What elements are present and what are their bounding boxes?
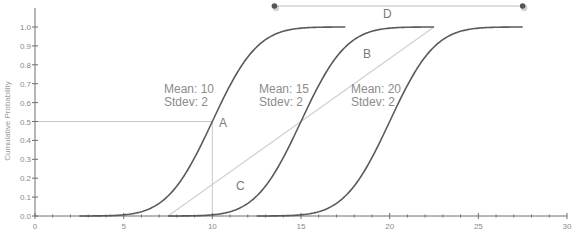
letter-d: D: [383, 7, 392, 21]
y-tick-label: 0.6: [20, 99, 32, 108]
x-tick-label: 5: [121, 222, 126, 231]
letter-c: C: [236, 179, 245, 193]
y-axis-label: Cumulative Probability: [3, 81, 12, 161]
annotation-mean-15: Mean: 15: [259, 82, 309, 96]
annotation-mean-10: Mean: 10: [164, 82, 214, 96]
annotation-stdev-10: Stdev: 2: [164, 95, 208, 109]
y-tick-label: 1.0: [20, 23, 32, 32]
y-tick-label: 0.7: [20, 80, 32, 89]
cdf-curve-mean-20: [257, 27, 523, 216]
letter-a: A: [219, 116, 227, 130]
y-tick-label: 0.0: [20, 212, 32, 221]
annotation-stdev-15: Stdev: 2: [259, 95, 303, 109]
x-tick-label: 25: [474, 222, 483, 231]
x-tick-label: 0: [33, 222, 38, 231]
cdf-chart: 0510152025300.00.10.20.30.40.50.60.70.80…: [0, 0, 584, 244]
x-tick-label: 20: [385, 222, 394, 231]
y-tick-label: 0.3: [20, 155, 32, 164]
x-tick-label: 30: [563, 222, 572, 231]
letter-b: B: [363, 47, 371, 61]
x-tick-label: 15: [297, 222, 306, 231]
y-tick-label: 0.2: [20, 174, 32, 183]
annotation-mean-20: Mean: 20: [351, 82, 401, 96]
axes: 0510152025300.00.10.20.30.40.50.60.70.80…: [20, 8, 572, 231]
range-d-line: [272, 3, 528, 11]
reference-lines: [35, 27, 434, 216]
y-tick-label: 0.5: [20, 118, 32, 127]
x-tick-label: 10: [208, 222, 217, 231]
y-tick-label: 0.9: [20, 42, 32, 51]
range-d-start-handle[interactable]: [272, 3, 278, 9]
y-tick-label: 0.4: [20, 136, 32, 145]
y-tick-label: 0.8: [20, 61, 32, 70]
y-tick-label: 0.1: [20, 193, 32, 202]
annotation-stdev-20: Stdev: 2: [351, 95, 395, 109]
range-d-end-handle[interactable]: [520, 3, 526, 9]
